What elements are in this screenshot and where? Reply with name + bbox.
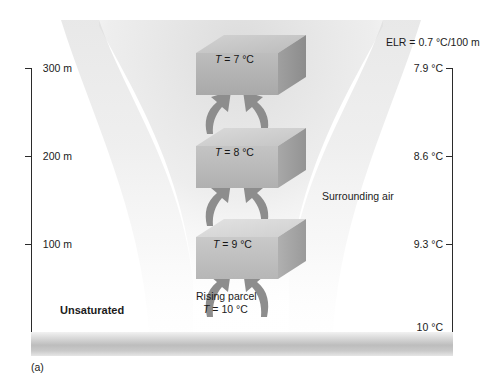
unsaturated-label: Unsaturated — [60, 304, 124, 316]
right-axis-line — [452, 68, 453, 332]
figure-caption: (a) — [31, 361, 44, 373]
parcel-cube-100m — [186, 217, 316, 289]
parcel-label-100m: T = 9 °C — [213, 238, 252, 250]
right-axis-tick-9-3 — [446, 244, 452, 245]
elr-annotation: ELR = 0.7 °C/100 m — [386, 36, 480, 48]
left-axis-line — [31, 68, 32, 332]
parcel-temp-100m: = 9 °C — [219, 238, 252, 250]
right-axis-label-8-6: 8.6 °C — [385, 150, 443, 162]
ground-surface — [31, 332, 453, 356]
rising-parcel-label: Rising parcel — [196, 290, 257, 302]
parcel-cube-300m — [186, 33, 316, 105]
parcel-label-200m: T = 8 °C — [215, 146, 254, 158]
surrounding-air-label: Surrounding air — [322, 190, 394, 202]
left-axis-label-300: 300 m — [0, 62, 72, 74]
rising-parcel-temperature: T = 10 °C — [203, 303, 248, 315]
right-axis-tick-7-9 — [446, 68, 452, 69]
parcel-label-300m: T = 7 °C — [215, 53, 254, 65]
figure-rising-parcel-unsaturated: T = 7 °C T = 8 °C T = 9 °C 300 m 200 m 1… — [0, 0, 497, 387]
right-axis-label-9-3: 9.3 °C — [385, 238, 443, 250]
right-axis-tick-8-6 — [446, 156, 452, 157]
parcel-temp-300m: = 7 °C — [221, 53, 254, 65]
left-axis-label-100: 100 m — [0, 238, 72, 250]
left-axis-label-200: 200 m — [0, 150, 72, 162]
right-axis-label-7-9: 7.9 °C — [385, 62, 443, 74]
parcel-cube-200m — [186, 126, 316, 198]
parcel-temp-200m: = 8 °C — [221, 146, 254, 158]
